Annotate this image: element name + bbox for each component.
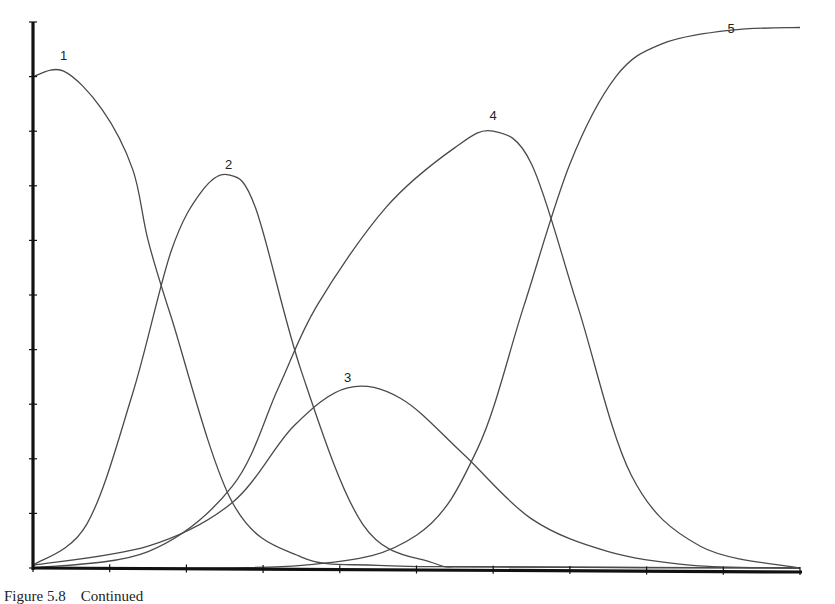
curve-label-5: 5 xyxy=(727,21,734,36)
curve-4 xyxy=(33,131,800,568)
curve-1 xyxy=(33,70,800,568)
curve-label-4: 4 xyxy=(490,108,497,123)
x-axis xyxy=(33,568,802,572)
curve-label-1: 1 xyxy=(60,48,67,63)
curve-2 xyxy=(33,174,800,568)
curve-label-3: 3 xyxy=(344,370,351,385)
axes-group xyxy=(33,22,802,572)
curves-group xyxy=(33,28,800,569)
curve-3 xyxy=(33,386,800,568)
curve-5 xyxy=(33,28,800,569)
curve-labels-group: 12345 xyxy=(60,21,735,386)
ticks-group xyxy=(29,22,800,575)
figure-caption: Figure 5.8 Continued xyxy=(4,589,143,604)
curve-label-2: 2 xyxy=(225,157,232,172)
